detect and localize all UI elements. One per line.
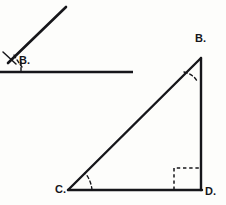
geometry-figure-canvas: B. B. C. D. xyxy=(0,0,226,205)
angle-ray-line xyxy=(8,7,66,63)
right-triangle-bcd xyxy=(68,58,202,190)
right-angle-marker-d xyxy=(174,168,200,190)
angle-marker-c xyxy=(85,173,92,190)
triangle-vertex-label-d: D. xyxy=(205,186,216,197)
angle-vertex-label-b: B. xyxy=(19,55,30,66)
geometry-drawing xyxy=(0,0,226,205)
triangle-hypotenuse-cb xyxy=(68,58,201,190)
triangle-apex-label-b: B. xyxy=(195,33,206,44)
triangle-vertex-label-c: C. xyxy=(55,184,66,195)
